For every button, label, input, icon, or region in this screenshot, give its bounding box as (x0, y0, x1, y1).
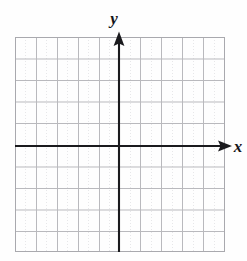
figure-background (0, 0, 247, 261)
x-axis-label: x (233, 137, 243, 156)
coordinate-plane-figure: y x (0, 0, 247, 261)
y-axis-label: y (108, 9, 118, 28)
coordinate-plane-svg: y x (0, 0, 247, 261)
